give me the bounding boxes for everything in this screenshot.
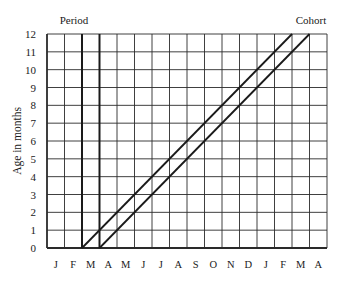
y-tick-label: 9 [31, 82, 37, 94]
x-tick-label: S [193, 259, 199, 270]
x-tick-label: J [264, 259, 268, 270]
period-label: Period [60, 14, 89, 26]
lexis-diagram: 0123456789101112 JFMAMJJASONDJFMA Period… [0, 0, 341, 284]
x-tick-label: M [86, 259, 96, 270]
y-tick-label: 6 [31, 135, 37, 147]
x-tick-label: J [141, 259, 145, 270]
x-tick-label: N [227, 259, 235, 270]
y-tick-label: 0 [31, 242, 37, 254]
x-tick-label: M [121, 259, 131, 270]
x-tick-label: M [296, 259, 306, 270]
x-tick-label: A [314, 259, 322, 270]
x-axis-ticks: JFMAMJJASONDJFMA [54, 259, 323, 270]
y-tick-label: 5 [31, 153, 37, 165]
y-tick-label: 11 [25, 46, 36, 58]
x-tick-label: F [70, 259, 76, 270]
x-tick-label: A [174, 259, 182, 270]
y-tick-label: 12 [25, 28, 36, 40]
x-tick-label: F [280, 259, 286, 270]
cohort-label: Cohort [296, 14, 327, 26]
y-tick-label: 4 [31, 171, 37, 183]
y-tick-label: 2 [31, 206, 37, 218]
x-tick-label: A [104, 259, 112, 270]
x-tick-label: J [54, 259, 58, 270]
y-tick-label: 8 [31, 99, 37, 111]
y-tick-label: 7 [31, 117, 37, 129]
y-tick-label: 1 [31, 224, 37, 236]
y-axis-label: Age in months [11, 107, 24, 175]
y-tick-label: 10 [25, 64, 37, 76]
y-tick-label: 3 [31, 189, 37, 201]
x-tick-label: D [244, 259, 252, 270]
x-tick-label: J [159, 259, 163, 270]
y-axis-ticks: 0123456789101112 [25, 28, 37, 254]
x-tick-label: O [209, 259, 217, 270]
